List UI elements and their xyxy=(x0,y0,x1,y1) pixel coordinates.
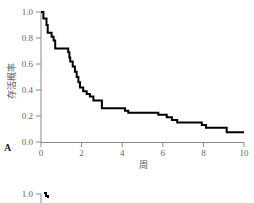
y-tick-label: 0.2 xyxy=(22,111,33,121)
panel-label: A xyxy=(4,142,12,153)
second-panel-partial: 1.0 xyxy=(22,189,48,203)
x-tick-label: 8 xyxy=(201,148,206,158)
y-tick-label: 0.8 xyxy=(22,33,34,43)
x-axis-title: 周 xyxy=(139,160,148,170)
second-panel-y-tick-label: 1.0 xyxy=(22,189,34,199)
y-tick-label: 1.0 xyxy=(22,7,34,17)
survival-chart: 0.00.20.40.60.81.0 0246810 存活概率 周 A 1.0 xyxy=(0,0,254,203)
x-tick-label: 10 xyxy=(240,148,250,158)
x-tick-label: 2 xyxy=(79,148,84,158)
y-ticks: 0.00.20.40.60.81.0 xyxy=(22,7,41,147)
second-panel-curve-start xyxy=(44,193,48,198)
chart-axes xyxy=(41,12,244,143)
y-tick-label: 0.4 xyxy=(22,85,34,95)
y-tick-label: 0.6 xyxy=(22,59,34,69)
x-tick-label: 4 xyxy=(120,148,125,158)
x-tick-label: 6 xyxy=(161,148,166,158)
x-ticks: 0246810 xyxy=(39,143,249,159)
x-tick-label: 0 xyxy=(39,148,44,158)
survival-curve xyxy=(41,12,244,132)
y-axis-title: 存活概率 xyxy=(6,63,17,99)
y-tick-label: 0.0 xyxy=(22,137,34,147)
